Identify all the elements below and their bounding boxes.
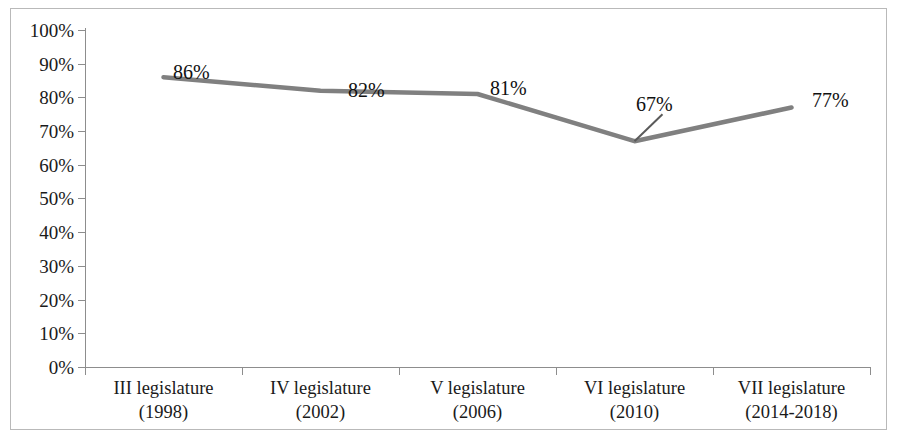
data-point-label: 81% xyxy=(490,78,527,98)
data-point-label: 77% xyxy=(812,90,849,110)
chart-figure: 100% 90% 80% 70% 60% 50% 40% 30% 20% 10%… xyxy=(0,0,897,436)
data-point-label: 67% xyxy=(636,94,673,114)
data-point-label: 82% xyxy=(348,80,385,100)
series-line-chart xyxy=(0,0,897,436)
series-line-path xyxy=(164,77,792,141)
data-point-label: 86% xyxy=(173,62,210,82)
